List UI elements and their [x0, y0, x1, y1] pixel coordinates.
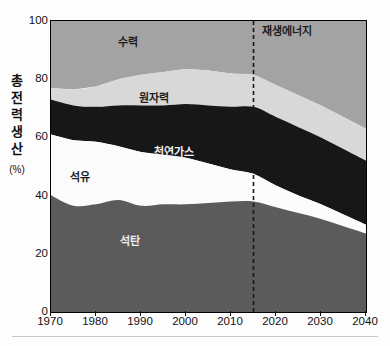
y-tick-60: 60 — [14, 130, 48, 142]
x-tick-2040: 2040 — [352, 315, 378, 327]
chart-root: 총 전 력 생 산 (%) 0 20 40 60 80 100 수력 재생에너 — [0, 0, 390, 346]
area-label-hydro: 수력 — [118, 33, 138, 49]
y-tick-40: 40 — [14, 189, 48, 201]
bottom-divider — [12, 336, 378, 337]
plot-area — [50, 20, 367, 313]
x-tickmark-2040 — [365, 311, 366, 316]
x-tick-1990: 1990 — [127, 315, 153, 327]
x-tick-1980: 1980 — [82, 315, 108, 327]
stacked-area-svg — [51, 21, 366, 312]
area-label-renewable: 재생에너지 — [262, 22, 312, 38]
area-label-oil: 석유 — [70, 168, 90, 184]
x-tickmark-2020 — [275, 311, 276, 316]
x-tick-2020: 2020 — [262, 315, 288, 327]
area-label-gas: 천연가스 — [154, 143, 194, 159]
x-tickmark-2030 — [320, 311, 321, 316]
x-tick-2010: 2010 — [217, 315, 243, 327]
x-tickmark-1970 — [50, 311, 51, 316]
area-label-coal: 석탄 — [120, 232, 140, 248]
x-tick-2030: 2030 — [307, 315, 333, 327]
area-bands — [51, 21, 366, 312]
y-tick-20: 20 — [14, 247, 48, 259]
y-axis-ticks: 0 20 40 60 80 100 — [8, 0, 48, 346]
x-tickmark-1980 — [95, 311, 96, 316]
x-tickmark-1990 — [140, 311, 141, 316]
x-tickmark-2010 — [230, 311, 231, 316]
y-tick-80: 80 — [14, 72, 48, 84]
area-label-nuclear: 원자력 — [139, 89, 169, 105]
x-tick-2000: 2000 — [172, 315, 198, 327]
x-tick-1970: 1970 — [37, 315, 63, 327]
y-tick-100: 100 — [14, 14, 48, 26]
x-tickmark-2000 — [185, 311, 186, 316]
